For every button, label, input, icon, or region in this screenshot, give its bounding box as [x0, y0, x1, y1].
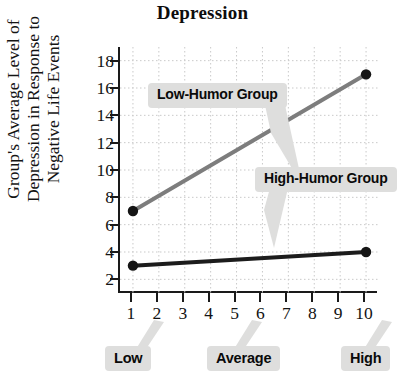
x-axis-tick-mark — [259, 293, 261, 302]
x-axis-tick-mark — [208, 293, 210, 302]
y-axis-title-line-3: Negative Life Events — [44, 35, 64, 184]
x-axis-tick-marks — [118, 293, 377, 302]
x-axis-group-label-high: High — [341, 346, 390, 371]
y-axis-title: Group's Average Level of Depression in R… — [0, 0, 69, 239]
x-axis-group-label-average: Average — [207, 346, 280, 371]
x-axis-tick-mark — [182, 293, 184, 302]
x-axis-group-label-low: Low — [105, 346, 151, 371]
x-axis-tick-mark — [156, 293, 158, 302]
x-axis-tick-mark — [311, 293, 313, 302]
high-humor-group-label: High-Humor Group — [255, 167, 397, 192]
y-axis-title-line-2: Depression in Response to — [24, 16, 44, 202]
high-humor-callout-tail — [262, 188, 312, 250]
x-axis-tick-mark — [130, 293, 132, 302]
x-axis-tick-mark — [337, 293, 339, 302]
x-axis-tick-mark — [363, 293, 365, 302]
y-axis-title-line-1: Group's Average Level of — [4, 19, 24, 198]
x-axis-tick-mark — [285, 293, 287, 302]
x-axis-tick-mark — [234, 293, 236, 302]
low-humor-group-label: Low-Humor Group — [148, 83, 287, 108]
